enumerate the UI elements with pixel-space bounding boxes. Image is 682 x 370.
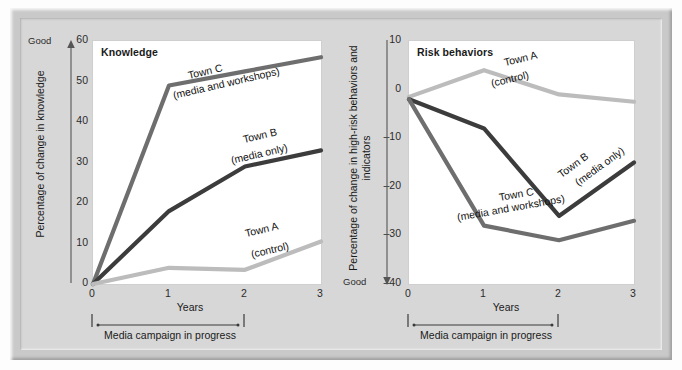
- campaign-bracket-knowledge: [84, 314, 254, 330]
- x-tick-label: 0: [84, 287, 100, 299]
- figure-root: Knowledge Town C(media and workshops)Tow…: [0, 0, 682, 370]
- x-axis-title-risk-behaviors: Years: [476, 301, 536, 313]
- x-tick-label: 2: [550, 287, 566, 299]
- series-line-town-b: [93, 150, 321, 284]
- campaign-annotation-risk-behaviors: Media campaign in progress: [386, 329, 586, 341]
- x-tick-label: 1: [475, 287, 491, 299]
- x-tick-label: 3: [625, 287, 641, 299]
- direction-arrow-down-icon: [380, 40, 394, 287]
- x-tick-label: 3: [312, 287, 328, 299]
- direction-arrow-up-icon: [64, 40, 78, 285]
- plot-area-knowledge: Knowledge Town C(media and workshops)Tow…: [92, 40, 322, 285]
- x-tick-label: 2: [236, 287, 252, 299]
- y-axis-title-risk-behaviors: Percentage of change in high-risk behavi…: [347, 30, 373, 286]
- y-axis-title-knowledge: Percentage of change in knowledge: [34, 30, 46, 278]
- x-axis-title-knowledge: Years: [160, 301, 220, 313]
- campaign-annotation-knowledge: Media campaign in progress: [70, 329, 270, 341]
- plot-area-risk-behaviors: Risk behaviors Town A(control)Town B(med…: [408, 40, 635, 285]
- x-tick-label: 0: [400, 287, 416, 299]
- campaign-bracket-risk-behaviors: [400, 314, 570, 330]
- x-tick-label: 1: [160, 287, 176, 299]
- chart-panel-risk-behaviors: Risk behaviors Town A(control)Town B(med…: [341, 18, 662, 350]
- chart-panel-knowledge: Knowledge Town C(media and workshops)Tow…: [20, 18, 341, 350]
